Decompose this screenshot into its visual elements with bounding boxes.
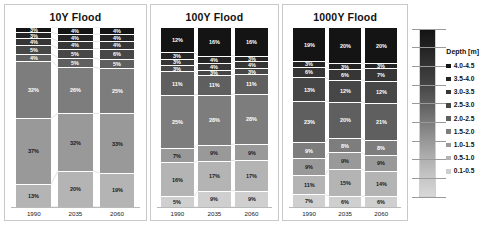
colorbar-tick (412, 85, 446, 86)
bar-column-2060: 4%4%4%6%5%25%33%19% (100, 27, 135, 207)
legend-item[interactable]: 0.1-0.5 (446, 165, 479, 178)
bar-segment: 9% (365, 155, 397, 171)
bar-segment-label: 5% (113, 61, 121, 67)
bar-segment-label: 12% (172, 37, 183, 43)
bar-segment-label: 8% (377, 145, 385, 151)
bar-segment: 16% (161, 162, 194, 196)
bar-segment: 6% (365, 196, 397, 207)
bar-segment: 5% (58, 58, 93, 67)
bar-segment-label: 7% (305, 198, 313, 204)
page-title: 1000Y Flood (287, 11, 403, 23)
legend-swatch-icon (446, 116, 451, 121)
bar-segment-label: 5% (30, 47, 38, 53)
legend-item[interactable]: 1.5-2.0 (446, 125, 479, 138)
bar-segment: 25% (100, 68, 135, 113)
colorbar (419, 29, 441, 197)
chart-panel-10y: 10Y Flood 3%3%4%5%4%32%37%13% 4%4%4%5%5%… (4, 4, 147, 221)
bar-segment-label: 19% (304, 42, 315, 48)
legend-item[interactable]: 2.0-2.5 (446, 112, 479, 125)
bar-segment: 9% (329, 152, 361, 168)
legend-item[interactable]: 2.5-3.0 (446, 99, 479, 112)
bar-segment-label: 7% (173, 153, 181, 159)
bar-segment: 13% (16, 184, 51, 207)
bar-segment-label: 11% (209, 82, 220, 88)
bar-column-2060: 20%3%7%12%21%8%9%14%6% (365, 27, 397, 207)
bar-segment: 4% (100, 41, 135, 48)
legend-item[interactable]: 0.5-1.0 (446, 151, 479, 164)
x-axis-labels: 1990 2035 2060 (287, 208, 403, 218)
bar-segment: 4% (235, 61, 268, 68)
bar-segment: 20% (329, 27, 361, 63)
bar-segment: 7% (161, 148, 194, 163)
bar-segment-label: 15% (340, 180, 351, 186)
x-tick-label: 1990 (293, 210, 325, 218)
bar-segment-label: 13% (304, 87, 315, 93)
legend-item[interactable]: 1.0-1.5 (446, 138, 479, 151)
bar-segment-label: 21% (376, 119, 387, 125)
legend-title: Depth [m] (446, 47, 479, 56)
x-tick-label: 2035 (198, 210, 231, 218)
x-tick-label: 1990 (16, 210, 51, 218)
plot-area-100y: 12%3%3%3%11%25%7%16%5% 16%4%4%3%11%28%9%… (155, 27, 274, 207)
bar-segment: 4% (100, 27, 135, 34)
bar-segment-label: 26% (70, 87, 81, 93)
bar-segment: 4% (58, 41, 93, 48)
bar-segment: 8% (365, 140, 397, 154)
legend-swatch-icon (446, 90, 451, 95)
bar-column-2035: 20%3%6%12%20%8%9%15%6% (329, 27, 361, 207)
bar-segment: 14% (365, 171, 397, 196)
x-tick-label: 2035 (329, 210, 361, 218)
colorbar-tick (412, 141, 446, 142)
legend-swatch-icon (446, 169, 451, 174)
colorbar-tick (412, 103, 446, 104)
bar-segment: 12% (329, 80, 361, 102)
bar-segment-label: 16% (209, 39, 220, 45)
bar-segment-label: 6% (377, 199, 385, 205)
bar-column-2035: 4%4%4%5%5%26%32%20% (58, 27, 93, 207)
bar-segment: 5% (161, 196, 194, 207)
bar-segment: 4% (16, 54, 51, 61)
bar-segment: 33% (100, 113, 135, 172)
bar-segment-label: 6% (305, 69, 313, 75)
bar-segment: 9% (293, 158, 325, 174)
legend-swatch-icon (446, 156, 451, 161)
bar-segment: 20% (58, 171, 93, 207)
colorbar-tick (412, 29, 446, 30)
legend-item-label: 0.1-0.5 (454, 167, 475, 175)
bar-segment-label: 32% (70, 140, 81, 146)
legend-item[interactable]: 3.0-3.5 (446, 86, 479, 99)
bar-segment-label: 13% (28, 193, 39, 199)
bar-segment: 5% (58, 49, 93, 58)
legend-item-label: 2.5-3.0 (454, 101, 475, 109)
bar-segment-label: 9% (210, 196, 218, 202)
bar-segment: 26% (58, 67, 93, 114)
bar-segment: 17% (198, 161, 231, 191)
bar-segment: 9% (235, 191, 268, 207)
bar-segment-label: 6% (341, 72, 349, 78)
bar-segment-label: 6% (341, 199, 349, 205)
bar-segment-label: 9% (341, 158, 349, 164)
colorbar-tick (412, 159, 446, 160)
bar-segment-label: 37% (28, 148, 39, 154)
bar-segment-label: 25% (172, 119, 183, 125)
bar-segment: 5% (100, 59, 135, 68)
legend-swatch-icon (446, 103, 451, 108)
legend-item[interactable]: 3.5-4.0 (446, 72, 479, 85)
x-tick-label: 2035 (58, 210, 93, 218)
bar-segment: 20% (329, 102, 361, 138)
legend-swatch-icon (446, 129, 451, 134)
bar-segment-label: 16% (246, 39, 257, 45)
bar-column-1990: 19%3%6%13%23%9%9%11%7% (293, 27, 325, 207)
bar-segment-label: 16% (172, 177, 183, 183)
legend-item[interactable]: 4.0-4.5 (446, 59, 479, 72)
bar-segment-label: 28% (246, 116, 257, 122)
bar-segment: 19% (293, 27, 325, 61)
bar-segment: 16% (235, 27, 268, 56)
bar-segment-label: 9% (305, 164, 313, 170)
bar-segment-label: 6% (113, 51, 121, 57)
legend-swatch-icon (446, 77, 451, 82)
x-tick-label: 2060 (100, 210, 135, 218)
page-title: 100Y Flood (155, 11, 274, 23)
bar-segment: 9% (198, 145, 231, 161)
bar-segment-label: 14% (376, 181, 387, 187)
